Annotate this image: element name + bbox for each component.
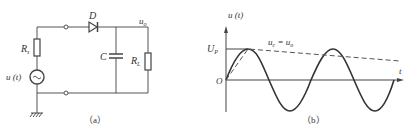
resistor-rl-icon <box>145 53 151 70</box>
circuit-diagram: D uo Rs u (t) C RL （a） <box>6 10 151 125</box>
output-label: uo <box>139 16 147 27</box>
origin-label: O <box>216 76 223 86</box>
y-axis-label: u (t) <box>228 10 243 20</box>
rs-label: Rs <box>20 43 30 55</box>
up-label: UP <box>207 43 218 55</box>
capacitor-label: C <box>100 51 107 62</box>
y-axis-arrow-icon <box>224 26 228 33</box>
ac-source-icon <box>30 70 44 84</box>
envelope-label: uc = uo <box>268 37 293 48</box>
rl-label: RL <box>130 55 141 67</box>
waveform-plot: u (t) t O UP uc = uo （b） <box>207 10 404 125</box>
x-axis-label: t <box>399 66 402 76</box>
terminal-top <box>64 25 68 29</box>
caption-a: （a） <box>84 115 106 125</box>
caption-b: （b） <box>302 115 325 125</box>
source-label: u (t) <box>6 72 21 82</box>
diagram-canvas: D uo Rs u (t) C RL （a） u (t) t O UP uc =… <box>0 0 409 137</box>
x-axis-arrow-icon <box>397 78 404 82</box>
resistor-rs-icon <box>34 39 40 56</box>
ground-icon <box>30 113 43 117</box>
diode-label: D <box>88 10 97 21</box>
diode-icon <box>89 22 98 32</box>
capacitor-icon <box>109 54 123 58</box>
terminal-bottom <box>64 91 68 95</box>
